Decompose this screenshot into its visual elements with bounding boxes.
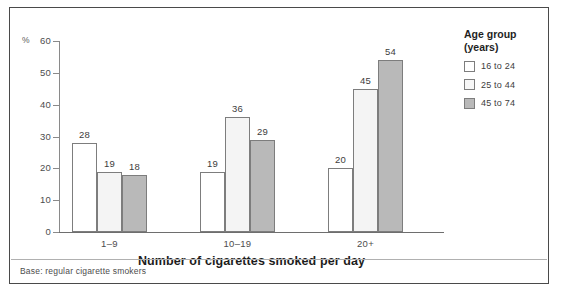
bar-value-label: 29 <box>244 126 281 137</box>
legend-item-16-to-24[interactable]: 16 to 24 <box>464 61 546 72</box>
bar <box>72 143 97 232</box>
footnote-divider <box>11 259 547 260</box>
y-axis-tick-label: 0 <box>7 226 51 237</box>
bar-value-label: 28 <box>66 129 103 140</box>
y-axis-tick-label: 20 <box>7 162 51 173</box>
y-axis-tick-label: 10 <box>7 194 51 205</box>
legend-title: Age group (years) <box>464 28 546 53</box>
bar-value-label: 18 <box>116 161 153 172</box>
legend-swatch-icon-45-to-74 <box>464 98 475 109</box>
bar <box>378 60 403 232</box>
x-axis-category-label: 10–19 <box>180 238 295 249</box>
y-axis-tick-label: 40 <box>7 99 51 110</box>
x-axis-category-label: 20+ <box>308 238 423 249</box>
x-axis-line <box>59 232 444 233</box>
bar <box>200 172 225 232</box>
legend-label-45-to-74: 45 to 74 <box>481 98 515 108</box>
legend-label-25-to-44: 25 to 44 <box>481 80 515 90</box>
bar-value-label: 20 <box>322 154 359 165</box>
legend-swatch-icon-25-to-44 <box>464 79 475 90</box>
bar <box>250 140 275 232</box>
legend-item-45-to-74[interactable]: 45 to 74 <box>464 98 546 109</box>
bar-value-label: 54 <box>372 46 409 57</box>
legend: Age group (years) 16 to 24 25 to 44 45 t… <box>464 28 546 109</box>
y-axis-tick-label: 60 <box>7 35 51 46</box>
legend-swatch-icon-16-to-24 <box>464 61 475 72</box>
bar <box>122 175 147 232</box>
chart-figure: % 0102030405060 Number of cigarettes smo… <box>0 0 566 299</box>
y-axis-tick-label: 50 <box>7 67 51 78</box>
legend-item-25-to-44[interactable]: 25 to 44 <box>464 79 546 90</box>
y-axis-tick-label: 30 <box>7 131 51 142</box>
bar-value-label: 19 <box>194 158 231 169</box>
legend-label-16-to-24: 16 to 24 <box>481 61 515 71</box>
bar <box>97 172 122 232</box>
x-axis-category-label: 1–9 <box>52 238 167 249</box>
bar-value-label: 45 <box>347 75 384 86</box>
y-axis-labels: 0102030405060 <box>0 0 51 299</box>
bar-value-label: 36 <box>219 103 256 114</box>
footnote: Base: regular cigarette smokers <box>20 266 146 276</box>
bar <box>328 168 353 232</box>
